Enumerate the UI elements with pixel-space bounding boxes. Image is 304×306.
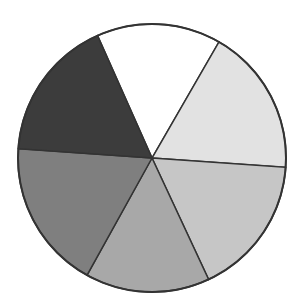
pie-chart bbox=[0, 0, 304, 306]
pie-slices bbox=[18, 24, 286, 292]
